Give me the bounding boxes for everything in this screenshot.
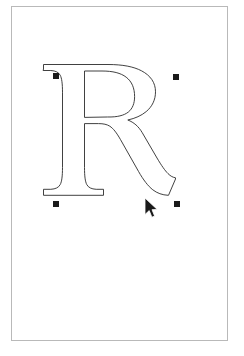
mouse-cursor-arrow-icon <box>144 197 158 219</box>
glyph-outer-contour <box>44 65 176 196</box>
artwork-layer <box>12 7 227 340</box>
anchor-handle-top-left[interactable] <box>53 73 59 79</box>
anchor-handle-bottom-left[interactable] <box>53 201 59 207</box>
anchor-handle-bottom-right[interactable] <box>174 201 180 207</box>
artboard-canvas[interactable] <box>11 6 228 341</box>
document-name-label: R <box>0 0 1 1</box>
application-root: R <box>0 0 244 356</box>
anchor-handle-top-right[interactable] <box>173 74 179 80</box>
glyph-outline-r[interactable] <box>12 7 229 342</box>
glyph-bowl-counter <box>85 71 135 117</box>
